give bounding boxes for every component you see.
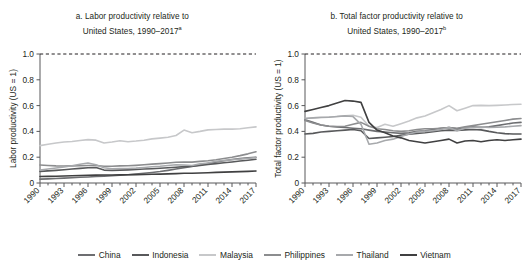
y-tick-label: 0.2 bbox=[287, 152, 299, 162]
panels-row: a. Labor productivity relative to United… bbox=[0, 0, 529, 232]
x-tick-label: 1993 bbox=[45, 185, 65, 205]
legend-item-thailand[interactable]: Thailand bbox=[336, 250, 389, 260]
x-tick-label: 2005 bbox=[141, 185, 161, 205]
x-tick-label: 2011 bbox=[454, 185, 474, 205]
series-line-philippines bbox=[305, 119, 521, 132]
series-line-vietnam bbox=[305, 100, 521, 143]
y-tick-label: 0.4 bbox=[287, 126, 299, 136]
legend-label-china: China bbox=[99, 250, 121, 260]
x-tick-label: 1996 bbox=[334, 185, 354, 205]
y-tick-label: 0.6 bbox=[287, 101, 299, 111]
x-tick-label: 1996 bbox=[69, 185, 89, 205]
y-axis-title: Labor productivity (US = 1) bbox=[8, 69, 18, 168]
y-tick-label: 0.4 bbox=[22, 126, 34, 136]
legend-swatch-china bbox=[78, 254, 95, 256]
series-line-malaysia bbox=[40, 127, 256, 146]
legend-swatch-malaysia bbox=[199, 254, 216, 256]
y-tick-label: 0.8 bbox=[22, 75, 34, 85]
x-tick-label: 2002 bbox=[117, 185, 137, 205]
x-tick-label: 2014 bbox=[213, 185, 233, 205]
legend-label-philippines: Philippines bbox=[285, 250, 326, 260]
figure-container: a. Labor productivity relative to United… bbox=[0, 0, 529, 268]
series-line-vietnam bbox=[40, 171, 256, 177]
y-tick-label: 1.0 bbox=[22, 49, 34, 59]
legend-label-malaysia: Malaysia bbox=[220, 250, 253, 260]
legend-item-malaysia[interactable]: Malaysia bbox=[199, 250, 253, 260]
x-tick-label: 1999 bbox=[358, 185, 378, 205]
legend-swatch-vietnam bbox=[400, 254, 417, 256]
legend-item-indonesia[interactable]: Indonesia bbox=[132, 250, 189, 260]
x-tick-label: 2002 bbox=[382, 185, 402, 205]
panel-a: a. Labor productivity relative to United… bbox=[0, 0, 265, 232]
series-line-philippines bbox=[40, 152, 256, 166]
legend-swatch-thailand bbox=[336, 254, 353, 256]
panel-b-plot: 00.20.40.60.81.0199019931996199920022005… bbox=[265, 0, 529, 232]
x-tick-label: 2014 bbox=[478, 185, 498, 205]
x-tick-label: 1990 bbox=[21, 185, 41, 205]
x-tick-label: 2011 bbox=[190, 185, 210, 205]
x-tick-label: 1999 bbox=[93, 185, 113, 205]
x-tick-label: 2005 bbox=[406, 185, 426, 205]
panel-a-svg: 00.20.40.60.81.0199019931996199920022005… bbox=[0, 0, 265, 232]
legend-label-vietnam: Vietnam bbox=[420, 250, 451, 260]
chart-legend: ChinaIndonesiaMalaysiaPhilippinesThailan… bbox=[0, 250, 529, 260]
legend-item-philippines[interactable]: Philippines bbox=[264, 250, 325, 260]
legend-swatch-indonesia bbox=[132, 254, 149, 256]
x-tick-label: 2017 bbox=[502, 185, 522, 205]
y-axis-title: Total factor productivity (US = 1) bbox=[273, 59, 283, 178]
x-tick-label: 1993 bbox=[310, 185, 330, 205]
x-tick-label: 2008 bbox=[430, 185, 450, 205]
panel-a-plot: 00.20.40.60.81.0199019931996199920022005… bbox=[0, 0, 265, 232]
x-tick-label: 2017 bbox=[237, 185, 257, 205]
legend-label-indonesia: Indonesia bbox=[152, 250, 188, 260]
panel-b: b. Total factor productivity relative to… bbox=[265, 0, 529, 232]
legend-label-thailand: Thailand bbox=[357, 250, 389, 260]
y-tick-label: 0.8 bbox=[287, 75, 299, 85]
legend-item-vietnam[interactable]: Vietnam bbox=[400, 250, 451, 260]
legend-swatch-philippines bbox=[264, 254, 281, 256]
y-tick-label: 0.2 bbox=[22, 152, 34, 162]
y-tick-label: 0.6 bbox=[22, 101, 34, 111]
panel-b-svg: 00.20.40.60.81.0199019931996199920022005… bbox=[265, 0, 529, 232]
legend-item-china[interactable]: China bbox=[78, 250, 120, 260]
x-tick-label: 1990 bbox=[286, 185, 306, 205]
y-tick-label: 1.0 bbox=[287, 49, 299, 59]
x-tick-label: 2008 bbox=[165, 185, 185, 205]
